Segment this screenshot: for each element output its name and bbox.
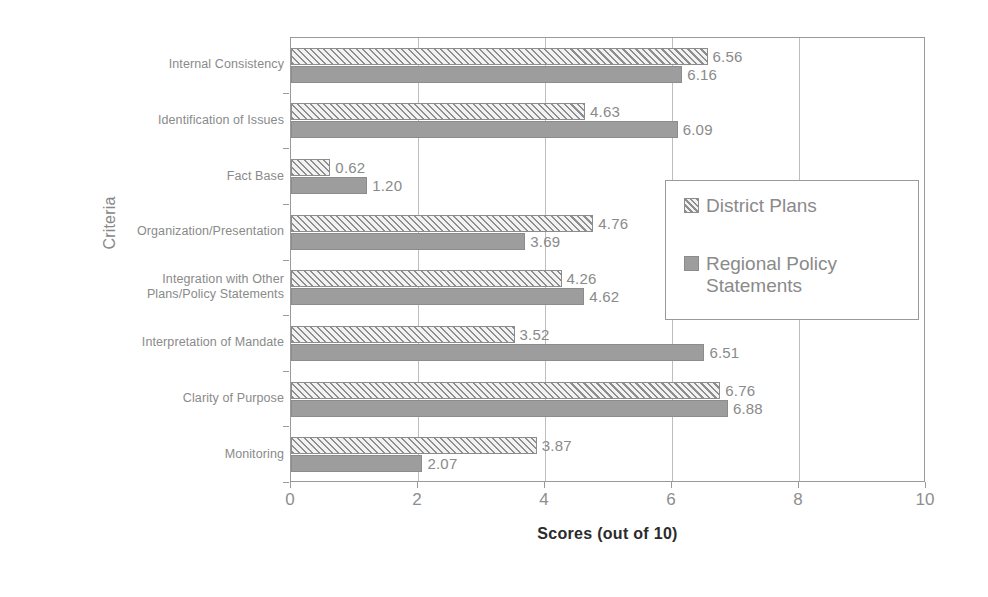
bar-value-label: 6.76 <box>720 381 755 398</box>
y-axis-tick-label: Integration with OtherPlans/Policy State… <box>96 272 284 302</box>
bar-0 <box>291 159 330 176</box>
legend-item: District Plans <box>684 195 817 217</box>
bar-group: 4.636.09 <box>291 103 924 139</box>
legend-swatch-icon <box>684 198 699 213</box>
x-axis-tick-label: 6 <box>666 490 675 510</box>
x-axis-tick-label: 2 <box>412 490 421 510</box>
x-axis-ticks <box>290 482 925 490</box>
bar-group: 6.566.16 <box>291 48 924 84</box>
bar-group: 6.766.88 <box>291 382 924 418</box>
bar-1 <box>291 121 678 138</box>
y-axis-tick-label: Internal Consistency <box>96 57 284 72</box>
bar-1 <box>291 400 728 417</box>
y-axis-tick-label: Monitoring <box>96 447 284 462</box>
x-axis-tick-label: 4 <box>539 490 548 510</box>
y-axis-tick-label: Fact Base <box>96 169 284 184</box>
bar-value-label: 3.52 <box>515 325 550 342</box>
bar-1 <box>291 66 682 83</box>
bar-1 <box>291 288 584 305</box>
chart-legend: District PlansRegional PolicyStatements <box>665 180 919 320</box>
bar-0 <box>291 103 585 120</box>
bar-value-label: 4.26 <box>562 270 597 287</box>
bar-0 <box>291 270 562 287</box>
x-axis-tick <box>798 482 799 488</box>
y-axis-tick-label: Clarity of Purpose <box>96 391 284 406</box>
x-axis-tick-label: 0 <box>285 490 294 510</box>
bar-value-label: 4.76 <box>593 214 628 231</box>
x-axis-tick-label: 10 <box>916 490 935 510</box>
bar-value-label: 4.62 <box>584 288 619 305</box>
x-axis-tick <box>290 482 291 488</box>
bar-value-label: 0.62 <box>330 159 365 176</box>
x-axis-tick <box>544 482 545 488</box>
legend-label: District Plans <box>706 195 817 217</box>
bar-0 <box>291 437 537 454</box>
bar-group: 3.526.51 <box>291 326 924 362</box>
bar-value-label: 6.09 <box>678 121 713 138</box>
bar-0 <box>291 326 515 343</box>
legend-swatch-icon <box>684 256 699 271</box>
x-axis-title: Scores (out of 10) <box>290 525 925 543</box>
bar-value-label: 3.87 <box>537 437 572 454</box>
y-axis-tick <box>283 482 289 483</box>
bar-group: 3.872.07 <box>291 437 924 473</box>
bar-value-label: 2.07 <box>422 455 457 472</box>
bar-chart: Criteria Internal ConsistencyIdentificat… <box>0 0 988 597</box>
legend-label: Regional PolicyStatements <box>706 253 837 297</box>
bar-1 <box>291 177 367 194</box>
bar-value-label: 6.88 <box>728 399 763 416</box>
x-axis-tick <box>417 482 418 488</box>
bar-1 <box>291 344 704 361</box>
bar-value-label: 4.63 <box>585 103 620 120</box>
bar-1 <box>291 455 422 472</box>
bar-0 <box>291 215 593 232</box>
bar-1 <box>291 233 525 250</box>
x-axis-tick-labels: 0246810 <box>290 490 925 514</box>
bar-value-label: 1.20 <box>367 177 402 194</box>
y-axis-tick <box>283 93 289 94</box>
x-axis-tick <box>671 482 672 488</box>
bar-value-label: 6.16 <box>682 65 717 82</box>
bar-0 <box>291 382 720 399</box>
bar-value-label: 6.51 <box>704 343 739 360</box>
y-axis-tick <box>283 426 289 427</box>
y-axis-tick <box>283 148 289 149</box>
y-axis-tick <box>283 260 289 261</box>
y-axis-ticks <box>283 37 290 482</box>
y-axis-tick-label: Identification of Issues <box>96 113 284 128</box>
y-axis-tick <box>283 315 289 316</box>
bar-value-label: 3.69 <box>525 232 560 249</box>
legend-item: Regional PolicyStatements <box>684 253 837 297</box>
y-axis-tick-label: Interpretation of Mandate <box>96 335 284 350</box>
x-axis-tick-label: 8 <box>793 490 802 510</box>
y-axis-tick <box>283 204 289 205</box>
bar-0 <box>291 48 708 65</box>
x-axis-tick <box>925 482 926 488</box>
bar-value-label: 6.56 <box>708 47 743 64</box>
y-axis-tick-labels: Internal ConsistencyIdentification of Is… <box>96 37 284 482</box>
y-axis-tick-label: Organization/Presentation <box>96 224 284 239</box>
y-axis-tick <box>283 371 289 372</box>
